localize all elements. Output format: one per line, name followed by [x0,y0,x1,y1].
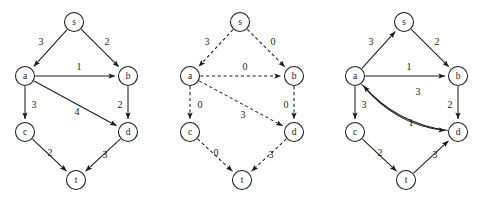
node-original-graph-b: b [119,67,138,86]
node-residual-graph-s: s [231,13,250,32]
node-updated-graph-t: t [397,171,416,190]
node-updated-graph-a: a [346,67,365,86]
node-updated-graph-d: d [449,123,468,142]
flow-network-figure: sabcdtsabcdtsabcdt 321342233000300332133… [0,0,486,203]
edge-weight-residual-graph-s-b: 0 [271,36,276,47]
node-label-d: d [456,127,461,137]
edge-weight-residual-graph-s-a: 3 [205,36,210,47]
edge-weight-original-graph-s-a: 3 [39,36,44,47]
edge-updated-graph-t-d [414,141,449,173]
node-residual-graph-c: c [181,123,200,142]
edge-updated-graph-a-d [362,84,445,131]
edge-weight-updated-graph-a-b: 1 [407,61,412,72]
node-original-graph-a: a [16,67,35,86]
node-updated-graph-s: s [395,13,414,32]
edge-weight-residual-graph-a-b: 0 [243,61,248,72]
edge-residual-graph-s-b [247,29,284,66]
weights-layer: 3213422330003003321331223 [32,36,453,160]
node-original-graph-t: t [67,171,86,190]
node-label-d: d [126,127,131,137]
edge-updated-graph-d-a [364,86,448,131]
node-residual-graph-t: t [233,171,252,190]
node-updated-graph-c: c [346,123,365,142]
edge-weight-updated-graph-a-c: 3 [362,99,367,110]
edge-updated-graph-s-b [411,29,448,66]
node-residual-graph-b: b [285,67,304,86]
node-residual-graph-a: a [181,67,200,86]
edge-weight-original-graph-a-c: 3 [32,99,37,110]
node-label-c: c [23,127,27,137]
edge-weight-residual-graph-a-c: 0 [198,99,203,110]
edge-weight-residual-graph-c-t: 0 [214,147,219,158]
node-label-d: d [292,127,297,137]
edge-weight-updated-graph-b-d: 2 [448,99,453,110]
edge-weight-updated-graph-a-s: 3 [369,36,374,47]
edge-original-graph-a-d [34,81,116,126]
edge-weight-residual-graph-a-d: 3 [241,109,246,120]
edge-weight-original-graph-a-d: 4 [75,106,80,117]
edge-weight-updated-graph-d-a: 3 [416,86,421,97]
edge-weight-original-graph-b-d: 2 [118,99,123,110]
node-label-t: t [75,175,78,185]
edge-weight-updated-graph-a-d: 1 [409,117,414,128]
node-label-t: t [241,175,244,185]
node-original-graph-s: s [65,13,84,32]
edge-weight-residual-graph-b-d: 0 [284,99,289,110]
edge-weight-updated-graph-t-d: 3 [433,149,438,160]
edge-weight-updated-graph-c-t: 2 [378,147,383,158]
edge-weight-original-graph-d-t: 3 [103,149,108,160]
node-original-graph-c: c [16,123,35,142]
edge-weight-residual-graph-d-t: 3 [269,149,274,160]
edge-updated-graph-a-s [362,32,395,69]
node-label-b: b [126,71,131,81]
edge-weight-original-graph-a-b: 1 [77,61,82,72]
edges-layer [25,29,458,173]
nodes-layer: sabcdtsabcdtsabcdt [16,13,468,190]
node-label-s: s [72,17,76,27]
edge-weight-updated-graph-s-b: 2 [435,36,440,47]
node-label-c: c [188,127,192,137]
node-label-b: b [292,71,297,81]
node-label-c: c [353,127,357,137]
node-label-b: b [456,71,461,81]
node-updated-graph-b: b [449,67,468,86]
edge-original-graph-s-b [81,29,118,66]
graph-canvas: sabcdtsabcdtsabcdt 321342233000300332133… [0,0,486,203]
node-label-s: s [238,17,242,27]
node-original-graph-d: d [119,123,138,142]
node-label-t: t [405,175,408,185]
node-residual-graph-d: d [285,123,304,142]
node-label-s: s [402,17,406,27]
edge-weight-original-graph-c-t: 2 [48,147,53,158]
edge-weight-original-graph-s-b: 2 [105,36,110,47]
